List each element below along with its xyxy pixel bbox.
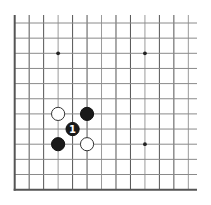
black-stone bbox=[52, 138, 65, 151]
move-number-label: 1 bbox=[69, 124, 76, 135]
star-point-icon bbox=[143, 142, 147, 146]
white-stone bbox=[80, 138, 93, 151]
star-point-icon bbox=[143, 51, 147, 55]
white-stone-icon bbox=[80, 138, 93, 151]
black-stone-numbered: 1 bbox=[66, 122, 79, 135]
white-stone bbox=[52, 107, 65, 120]
black-stone-icon bbox=[80, 107, 93, 120]
board-grid bbox=[14, 15, 197, 191]
white-stone-icon bbox=[52, 107, 65, 120]
black-stone bbox=[80, 107, 93, 120]
go-board: 1 bbox=[0, 0, 211, 205]
star-point-icon bbox=[56, 51, 60, 55]
black-stone-icon bbox=[52, 138, 65, 151]
